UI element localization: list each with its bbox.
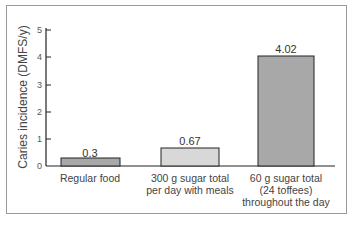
category-label-line: 60 g sugar total [236, 172, 336, 184]
value-label: 4.02 [275, 43, 296, 55]
value-label: 0.67 [179, 135, 200, 147]
y-tick-label: 4 [37, 52, 42, 62]
y-tick-label: 0 [37, 161, 42, 171]
y-ticks [46, 30, 51, 139]
category-label-line: 300 g sugar total [140, 172, 240, 184]
y-tick-label: 3 [37, 80, 42, 90]
y-tick-label: 2 [37, 107, 42, 117]
category-label-regular-food: Regular food [45, 172, 135, 184]
value-label: 0.3 [82, 147, 97, 159]
category-label-60g-sugar: 60 g sugar total (24 toffees) throughout… [236, 172, 336, 208]
bar-regular-food [61, 158, 120, 166]
category-label-line: Regular food [45, 172, 135, 184]
category-label-300g-sugar: 300 g sugar total per day with meals [140, 172, 240, 196]
y-tick-label: 5 [37, 25, 42, 35]
bar-60g-sugar [258, 56, 314, 166]
bar-300g-sugar [161, 148, 219, 166]
category-label-line: per day with meals [140, 184, 240, 196]
category-label-line: (24 toffees) [236, 184, 336, 196]
category-label-line: throughout the day [236, 196, 336, 208]
y-axis-title: Caries incidence (DMFS/y) [16, 22, 30, 172]
y-tick-label: 1 [37, 134, 42, 144]
